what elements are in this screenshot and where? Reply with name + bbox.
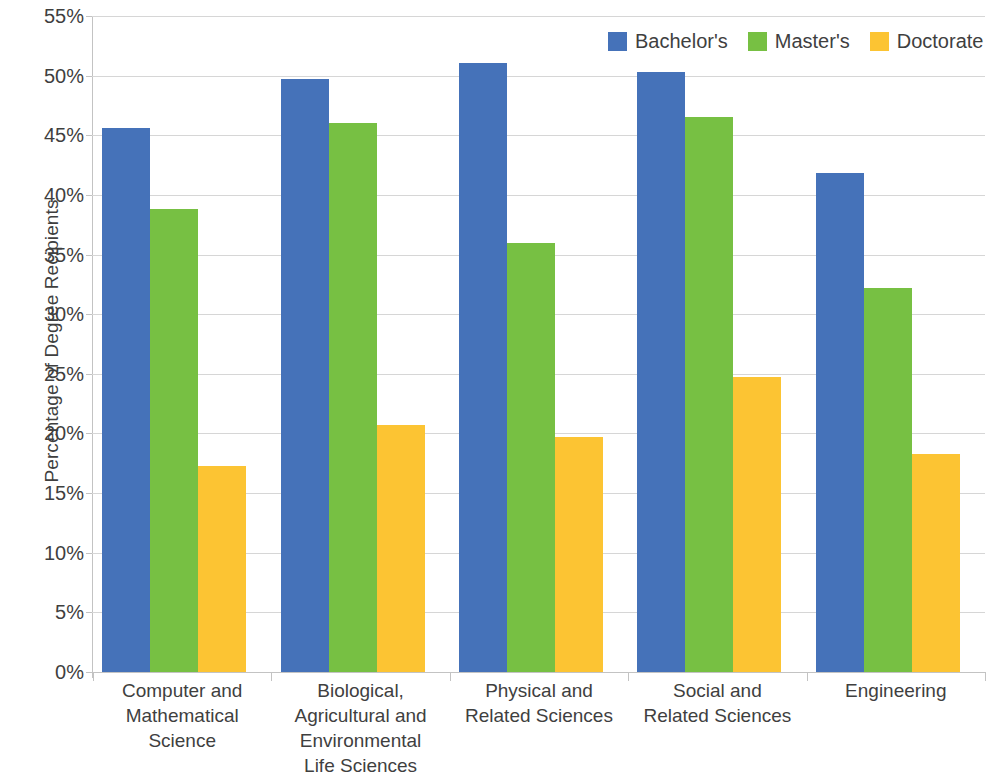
bar-doctorate[interactable]	[377, 425, 425, 672]
y-axis-tick-label: 30%	[22, 303, 84, 326]
y-axis-tick-mark	[86, 374, 92, 375]
category-label-line: Environmental	[271, 728, 449, 753]
category-label-line: Related Sciences	[450, 703, 628, 728]
bar-master-s[interactable]	[685, 117, 733, 672]
x-axis-tick-mark	[985, 672, 986, 681]
x-axis-category-label: Physical andRelated Sciences	[450, 678, 628, 728]
y-axis-tick-mark	[86, 553, 92, 554]
x-axis-category-label: Social andRelated Sciences	[628, 678, 806, 728]
bar-master-s[interactable]	[150, 209, 198, 672]
legend-label: Master's	[775, 30, 850, 53]
bar-doctorate[interactable]	[733, 377, 781, 672]
legend-item[interactable]: Bachelor's	[608, 30, 728, 53]
y-axis-tick-mark	[86, 433, 92, 434]
y-axis-tick-mark	[86, 314, 92, 315]
category-label-line: Biological,	[271, 678, 449, 703]
bar-groups	[93, 16, 985, 672]
y-axis-tick-label: 25%	[22, 362, 84, 385]
category-label-line: Life Sciences	[271, 753, 449, 778]
bar-group	[450, 16, 628, 672]
category-label-line: Related Sciences	[628, 703, 806, 728]
y-axis-tick-mark	[86, 135, 92, 136]
bar-bachelor-s[interactable]	[816, 173, 864, 672]
bar-doctorate[interactable]	[555, 437, 603, 672]
y-axis-tick-mark	[86, 255, 92, 256]
category-label-line: Engineering	[807, 678, 985, 703]
category-label-line: Physical and	[450, 678, 628, 703]
legend-swatch-icon	[748, 32, 767, 51]
y-axis-tick-mark	[86, 16, 92, 17]
y-axis-tick-label: 35%	[22, 243, 84, 266]
y-axis-tick-mark	[86, 195, 92, 196]
y-axis-tick-mark	[86, 612, 92, 613]
x-axis-category-labels: Computer andMathematicalScienceBiologica…	[93, 678, 985, 781]
y-axis-tick-label: 15%	[22, 482, 84, 505]
chart-legend: Bachelor'sMaster'sDoctorate	[608, 30, 983, 53]
bar-bachelor-s[interactable]	[102, 128, 150, 672]
bar-bachelor-s[interactable]	[637, 72, 685, 672]
y-axis-tick-label: 40%	[22, 183, 84, 206]
x-axis-category-label: Computer andMathematicalScience	[93, 678, 271, 753]
legend-swatch-icon	[608, 32, 627, 51]
x-axis-category-label: Engineering	[807, 678, 985, 703]
category-label-line: Mathematical	[93, 703, 271, 728]
chart-page: Percentage of Degree Recipients 0%5%10%1…	[0, 0, 989, 781]
category-label-line: Computer and	[93, 678, 271, 703]
legend-item[interactable]: Doctorate	[870, 30, 984, 53]
bar-master-s[interactable]	[329, 123, 377, 672]
x-axis-category-label: Biological,Agricultural andEnvironmental…	[271, 678, 449, 778]
bar-master-s[interactable]	[864, 288, 912, 672]
bar-doctorate[interactable]	[912, 454, 960, 672]
category-label-line: Science	[93, 728, 271, 753]
bar-master-s[interactable]	[507, 243, 555, 672]
y-axis-tick-label: 45%	[22, 124, 84, 147]
y-axis-tick-mark	[86, 76, 92, 77]
bar-group	[807, 16, 985, 672]
y-axis-tick-label: 5%	[22, 601, 84, 624]
y-axis-tick-label: 10%	[22, 541, 84, 564]
bar-bachelor-s[interactable]	[459, 63, 507, 672]
legend-item[interactable]: Master's	[748, 30, 850, 53]
y-axis-tick-mark	[86, 493, 92, 494]
y-axis-tick-labels: 0%5%10%15%20%25%30%35%40%45%50%55%	[20, 16, 84, 672]
bar-bachelor-s[interactable]	[281, 79, 329, 672]
legend-label: Bachelor's	[635, 30, 728, 53]
y-axis-tick-label: 55%	[22, 5, 84, 28]
bar-group	[93, 16, 271, 672]
category-label-line: Agricultural and	[271, 703, 449, 728]
legend-label: Doctorate	[897, 30, 984, 53]
x-axis-line	[92, 672, 985, 673]
category-label-line: Social and	[628, 678, 806, 703]
legend-swatch-icon	[870, 32, 889, 51]
y-axis-tick-label: 0%	[22, 661, 84, 684]
y-axis-tick-label: 20%	[22, 422, 84, 445]
bar-doctorate[interactable]	[198, 466, 246, 672]
bar-group	[628, 16, 806, 672]
bar-group	[271, 16, 449, 672]
y-axis-tick-label: 50%	[22, 64, 84, 87]
